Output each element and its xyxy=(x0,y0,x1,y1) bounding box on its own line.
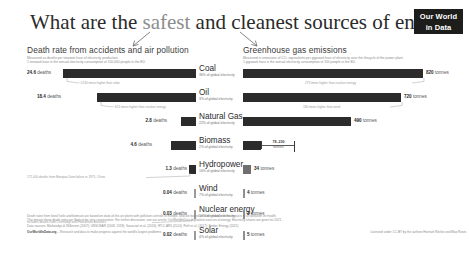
table-row: 4 tonnes xyxy=(243,188,465,209)
left-value-biomass: 4.6 xyxy=(131,142,137,147)
title-part-pre: What are the xyxy=(30,10,143,34)
left-bar-oil xyxy=(97,93,196,102)
category-hydropower: Hydropower 16% of global electricity xyxy=(199,160,243,173)
title-part-mid: and xyxy=(190,10,231,34)
category-share-oil: 3% of global electricity xyxy=(199,97,233,101)
left-value-natural-gas: 2.8 xyxy=(146,118,152,123)
right-annotation-leader-oil xyxy=(389,102,403,108)
category-biomass: Biomass 2% of global electricity xyxy=(199,136,233,149)
right-value-biomass: 78–230 xyxy=(273,140,285,144)
category-share-hydropower: 16% of global electricity xyxy=(199,169,243,173)
left-value-wind: 0.04 xyxy=(163,190,172,195)
table-row: 34 tonnes xyxy=(243,164,465,188)
footer-license: Licensed under CC-BY by the authors Hann… xyxy=(370,230,467,234)
category-label-natural-gas: Natural Gas xyxy=(199,112,243,121)
table-row: 820 tonnes 273 times higher than nuclear… xyxy=(243,68,465,92)
owid-tagline: – Research and data to make progress aga… xyxy=(57,230,162,234)
right-value-coal: 820 xyxy=(426,70,434,75)
category-coal: Coal 36% of global electricity xyxy=(199,64,235,77)
owid-logo: Our World in Data xyxy=(414,9,463,34)
right-value-hydropower: 34 xyxy=(254,166,259,171)
category-share-solar: 4% of global electricity xyxy=(199,235,233,239)
left-bar-biomass xyxy=(171,141,196,150)
left-unit-natural-gas: deaths xyxy=(153,118,167,123)
left-value-oil: 18.4 xyxy=(37,94,46,99)
left-annotation-leader-oil xyxy=(100,102,114,108)
left-annotation-oil: ~613 times higher than nuclear energy xyxy=(113,105,166,109)
left-annotation-leader-coal xyxy=(66,78,80,84)
left-annotation-coal: ~1230 times higher than solar xyxy=(79,81,120,85)
right-annotation-coal: 273 times higher than nuclear energy xyxy=(305,81,356,85)
range-cap-high xyxy=(294,141,295,152)
category-label-oil: Oil xyxy=(199,88,233,97)
owid-link[interactable]: OurWorldInData.org xyxy=(27,230,57,234)
right-bar-oil xyxy=(243,93,401,102)
left-unit-coal: deaths xyxy=(37,70,51,75)
owid-logo-line1: Our World xyxy=(414,11,463,22)
category-natural-gas: Natural Gas 22% of global electricity xyxy=(199,112,243,125)
table-row: 78–230 tonnes xyxy=(243,140,465,164)
right-value-natural-gas: 490 xyxy=(354,118,362,123)
right-unit-coal: tonnes xyxy=(435,70,449,75)
table-row: 490 tonnes xyxy=(243,116,465,140)
left-annotation-hydropower: 171,000 deaths from Banqiao Dam failure … xyxy=(27,175,105,179)
right-unit-wind: tonnes xyxy=(251,190,265,195)
category-share-natural-gas: 22% of global electricity xyxy=(199,121,243,125)
right-value-wind: 4 xyxy=(247,190,250,195)
left-unit-wind: deaths xyxy=(173,190,187,195)
right-bar-biomass xyxy=(243,141,261,150)
left-panel-title: Death rate from accidents and air pollut… xyxy=(27,45,241,55)
right-bar-natural-gas xyxy=(243,117,351,126)
biomass-range: 78–230 tonnes xyxy=(261,141,295,153)
right-subtitle-line2: 1 gigawatt-hour is the annual electricit… xyxy=(243,60,465,64)
category-label-coal: Coal xyxy=(199,64,235,73)
right-annotation-leader-coal xyxy=(411,78,425,84)
category-label-hydropower: Hydropower xyxy=(199,160,243,169)
left-bar-coal xyxy=(63,69,196,78)
right-bar-wind xyxy=(243,189,245,198)
left-bar-natural-gas xyxy=(181,117,196,126)
left-value-coal: 24.6 xyxy=(27,70,36,75)
category-label-biomass: Biomass xyxy=(199,136,233,145)
right-value-oil: 720 xyxy=(404,94,412,99)
left-annotation-leader-hydropower xyxy=(145,173,191,179)
right-unit-oil: tonnes xyxy=(413,94,427,99)
category-label-wind: Wind xyxy=(199,184,233,193)
range-cap-low xyxy=(261,141,262,149)
left-unit-oil: deaths xyxy=(47,94,61,99)
category-share-biomass: 2% of global electricity xyxy=(199,145,233,149)
right-panel-subtitle: Measured in emissions of CO₂ equivalents… xyxy=(243,56,465,65)
right-bar-hydropower xyxy=(243,165,251,174)
left-unit-hydropower: deaths xyxy=(173,166,187,171)
footer-sources: Data sources: Markandya & Wilkinson (200… xyxy=(27,224,467,228)
owid-logo-line2: in Data xyxy=(414,22,463,33)
right-bar-coal xyxy=(243,69,423,78)
footer-note-line2: This means these death rates are likely … xyxy=(27,218,467,222)
left-bar-wind xyxy=(194,189,196,198)
category-wind: Wind 7% of global electricity xyxy=(199,184,233,197)
biomass-range-label: 78–230 tonnes xyxy=(263,140,294,149)
left-value-hydropower: 1.3 xyxy=(166,166,172,171)
category-oil: Oil 3% of global electricity xyxy=(199,88,233,101)
category-share-wind: 7% of global electricity xyxy=(199,193,233,197)
category-share-coal: 36% of global electricity xyxy=(199,73,235,77)
footer: Death rates from fossil fuels and biomas… xyxy=(27,214,467,234)
right-unit-hydropower: tonnes xyxy=(260,166,274,171)
right-unit-natural-gas: tonnes xyxy=(363,118,377,123)
right-unit-biomass: tonnes xyxy=(273,145,284,149)
table-row: 720 tonnes 180 times higher than wind xyxy=(243,92,465,116)
right-annotation-oil: 180 times higher than wind xyxy=(303,105,340,109)
left-unit-biomass: deaths xyxy=(138,142,152,147)
right-panel-title: Greenhouse gas emissions xyxy=(243,45,465,55)
